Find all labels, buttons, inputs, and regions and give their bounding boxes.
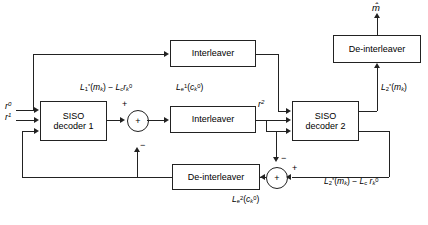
wire-siso2-out-top bbox=[359, 111, 377, 112]
label-input-r1: r1 bbox=[5, 111, 11, 122]
label-extrinsic-2: L2*(mk) − Lc rk0 bbox=[324, 176, 379, 186]
block-deinterleaver-bottom: De-interleaver bbox=[172, 164, 260, 190]
siso2-line2: decoder 2 bbox=[305, 121, 345, 131]
wire-interleaver-top-down bbox=[278, 54, 279, 111]
wire-feedback-bottom bbox=[22, 177, 172, 178]
wire-interleaver-mid-branch-down bbox=[266, 120, 267, 131]
arrow-into-interleaver-top bbox=[164, 51, 169, 57]
siso2-line1: SISO bbox=[315, 111, 337, 121]
wire-summer-to-interleaver-mid bbox=[147, 120, 164, 121]
wire-siso2-down-to-summer bbox=[389, 131, 390, 177]
wire-r0-input bbox=[16, 110, 34, 111]
interleaver-mid-label: Interleaver bbox=[192, 114, 235, 124]
arrow-feedback-into-siso1 bbox=[34, 128, 39, 134]
arrow-r0-into-siso1 bbox=[34, 107, 39, 113]
siso1-line1: SISO bbox=[63, 111, 85, 121]
wire-interleaver-top-out bbox=[256, 54, 278, 55]
label-output-m-hat: m̂ bbox=[372, 2, 380, 13]
arrow-into-siso2-bottom bbox=[286, 128, 291, 134]
block-interleaver-mid: Interleaver bbox=[170, 106, 256, 133]
wire-r2-down-to-right-summer bbox=[276, 131, 277, 157]
summing-junction-right: + bbox=[266, 167, 288, 189]
turbo-decoder-diagram: Interleaver Interleaver De-interleaver D… bbox=[0, 0, 428, 225]
arrow-output-m-hat bbox=[374, 13, 380, 18]
summing-right-minus-sign: − bbox=[281, 154, 286, 163]
block-deinterleaver-top: De-interleaver bbox=[333, 35, 421, 63]
summing-left-plus-sign: + bbox=[122, 100, 127, 109]
summing-junction-left: + bbox=[127, 110, 149, 132]
wire-interleaver-top-into-siso2 bbox=[278, 111, 286, 112]
arrow-siso1-into-summer bbox=[120, 117, 125, 123]
block-siso-decoder-1: SISO decoder 1 bbox=[40, 101, 107, 141]
wire-r1-input bbox=[16, 120, 34, 121]
label-extrinsic-1: L1*(mk) − Lcrk0 bbox=[80, 82, 132, 92]
wire-summer-input-vertical bbox=[137, 152, 138, 177]
label-input-r0: r0 bbox=[5, 100, 11, 111]
wire-feedback-vertical-left bbox=[22, 131, 23, 177]
arrow-into-siso2-mid bbox=[286, 117, 291, 123]
block-interleaver-top: Interleaver bbox=[170, 40, 256, 67]
summing-right-plus-sign: + bbox=[292, 164, 297, 173]
arrow-into-interleaver-mid bbox=[164, 117, 169, 123]
wire-deinterleaver-to-output bbox=[377, 18, 378, 35]
wire-siso2-out-bottom bbox=[359, 131, 389, 132]
wire-r0-branch-vertical bbox=[33, 54, 34, 111]
arrow-r2-into-siso2-top bbox=[286, 108, 291, 114]
summing-junction-left-sign: + bbox=[135, 116, 140, 126]
wire-r0-branch-to-interleaver-top bbox=[33, 54, 164, 55]
wire-feedback-into-siso1 bbox=[22, 131, 34, 132]
interleaver-top-label: Interleaver bbox=[192, 48, 235, 58]
wire-siso2-to-deinterleaver bbox=[377, 68, 378, 111]
siso1-line2: decoder 1 bbox=[53, 121, 93, 131]
arrow-into-summer-bottom bbox=[134, 147, 140, 152]
arrow-into-right-summer bbox=[286, 174, 291, 180]
arrow-r1-into-siso1 bbox=[34, 117, 39, 123]
label-llr-2: L2*(mk) bbox=[381, 82, 407, 92]
label-r2: r2 bbox=[258, 98, 264, 109]
deinterleaver-top-label: De-interleaver bbox=[349, 44, 406, 54]
deinterleaver-bottom-label: De-interleaver bbox=[188, 172, 245, 182]
summing-left-minus-sign: − bbox=[140, 141, 145, 150]
wire-interleaver-mid-out bbox=[256, 120, 286, 121]
label-extrinsic-2-e: Le2(ck0) bbox=[232, 194, 259, 204]
arrow-into-deinterleaver-top bbox=[374, 63, 380, 68]
summing-junction-right-sign: + bbox=[274, 173, 279, 183]
block-siso-decoder-2: SISO decoder 2 bbox=[292, 101, 359, 141]
wire-summer-out-left bbox=[260, 177, 266, 178]
arrow-minus-into-right-summer bbox=[273, 157, 279, 162]
wire-siso1-to-summer bbox=[107, 120, 120, 121]
label-extrinsic-1-e: Le1(ck0) bbox=[176, 82, 203, 92]
